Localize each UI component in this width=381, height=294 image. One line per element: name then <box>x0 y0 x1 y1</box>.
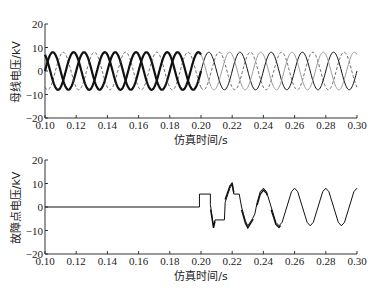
top-ylabel: 母线电压/kV <box>9 41 23 103</box>
y-tick-label: −20 <box>26 248 44 260</box>
x-tick-label: 0.16 <box>129 255 149 267</box>
x-tick-label: 0.24 <box>254 119 274 131</box>
x-tick-label: 0.28 <box>316 119 336 131</box>
waveform-phase-a <box>45 52 201 90</box>
x-tick-label: 0.16 <box>129 119 149 131</box>
x-tick-label: 0.26 <box>285 119 305 131</box>
y-tick-label: −20 <box>26 112 44 124</box>
bottom-xlabel: 仿真时间/s <box>174 269 228 283</box>
transient-noise <box>225 183 234 199</box>
x-tick-label: 0.20 <box>191 119 211 131</box>
y-tick-label: 10 <box>32 178 44 190</box>
transient-noise <box>271 210 280 228</box>
figure: 0.100.120.140.160.180.200.220.240.260.28… <box>0 0 381 294</box>
y-tick-label: 10 <box>32 42 44 54</box>
x-tick-label: 0.14 <box>98 119 118 131</box>
x-tick-label: 0.12 <box>67 255 86 267</box>
x-tick-label: 0.22 <box>223 119 242 131</box>
y-tick-label: 20 <box>32 154 44 166</box>
x-tick-label: 0.30 <box>347 119 367 131</box>
top-xlabel: 仿真时间/s <box>174 133 228 147</box>
x-tick-label: 0.18 <box>160 255 180 267</box>
fault-voltage-line <box>45 185 357 226</box>
x-tick-label: 0.28 <box>316 255 336 267</box>
transient-noise <box>257 190 267 205</box>
x-tick-label: 0.14 <box>98 255 118 267</box>
x-tick-label: 0.24 <box>254 255 274 267</box>
bus-voltage-plot: 0.100.120.140.160.180.200.220.240.260.28… <box>26 18 367 131</box>
fault-voltage-plot: 0.100.120.140.160.180.200.220.240.260.28… <box>26 154 367 267</box>
x-tick-label: 0.22 <box>223 255 242 267</box>
x-tick-label: 0.30 <box>347 255 367 267</box>
y-tick-label: −10 <box>26 225 44 237</box>
x-tick-label: 0.26 <box>285 255 305 267</box>
y-tick-label: 0 <box>38 65 44 77</box>
bottom-ylabel: 故障点电压/kV <box>9 171 23 244</box>
x-tick-label: 0.18 <box>160 119 180 131</box>
x-tick-label: 0.20 <box>191 255 211 267</box>
y-tick-label: 0 <box>38 201 44 213</box>
y-tick-label: 20 <box>32 18 44 30</box>
waveform-phase-a <box>201 52 357 90</box>
y-tick-label: −10 <box>26 89 44 101</box>
x-tick-label: 0.12 <box>67 119 86 131</box>
